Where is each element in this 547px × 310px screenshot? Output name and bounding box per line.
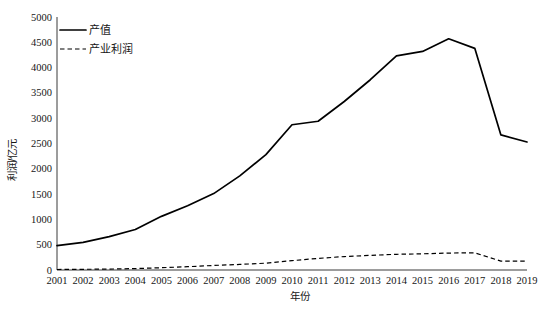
series-line-chanzhi: [57, 39, 527, 246]
x-tick-label: 2017: [464, 275, 485, 286]
chart-container: 0500100015002000250030003500400045005000…: [0, 0, 547, 310]
y-tick-label: 5000: [31, 12, 52, 23]
x-tick-label: 2013: [360, 275, 381, 286]
series-line-chanyelirun: [57, 253, 527, 270]
y-tick-label: 3000: [31, 113, 52, 124]
legend: 产值 产业利润: [60, 23, 133, 55]
x-axis-tick-labels: 2001200220032004200520062007200820092010…: [47, 275, 538, 286]
x-tick-label: 2007: [203, 275, 224, 286]
x-tick-label: 2019: [517, 275, 538, 286]
y-tick-label: 0: [47, 265, 52, 276]
x-tick-label: 2002: [73, 275, 94, 286]
x-tick-label: 2006: [177, 275, 198, 286]
x-tick-label: 2011: [308, 275, 329, 286]
x-tick-label: 2015: [412, 275, 433, 286]
y-tick-label: 500: [36, 239, 52, 250]
y-tick-label: 2000: [31, 163, 52, 174]
x-tick-label: 2004: [125, 275, 147, 286]
x-tick-label: 2003: [99, 275, 120, 286]
y-axis-title: 利润/亿元: [6, 138, 18, 182]
y-tick-label: 1000: [31, 214, 52, 225]
x-tick-label: 2009: [255, 275, 276, 286]
legend-label-chanzhi: 产值: [89, 23, 111, 36]
y-axis-tick-labels: 0500100015002000250030003500400045005000: [31, 12, 52, 276]
y-tick-label: 1500: [31, 189, 52, 200]
line-chart: 0500100015002000250030003500400045005000…: [0, 0, 547, 310]
y-tick-label: 2500: [31, 138, 52, 149]
x-tick-label: 2018: [490, 275, 511, 286]
x-tick-label: 2001: [47, 275, 68, 286]
x-tick-label: 2016: [438, 275, 459, 286]
x-tick-label: 2010: [282, 275, 303, 286]
y-tick-label: 3500: [31, 87, 52, 98]
y-tick-label: 4000: [31, 62, 52, 73]
x-axis-title: 年份: [290, 290, 311, 302]
x-tick-label: 2014: [386, 275, 408, 286]
legend-label-chanyelirun: 产业利润: [89, 42, 133, 55]
x-tick-label: 2005: [151, 275, 172, 286]
y-tick-label: 4500: [31, 37, 52, 48]
x-tick-label: 2008: [229, 275, 250, 286]
x-tick-label: 2012: [334, 275, 355, 286]
